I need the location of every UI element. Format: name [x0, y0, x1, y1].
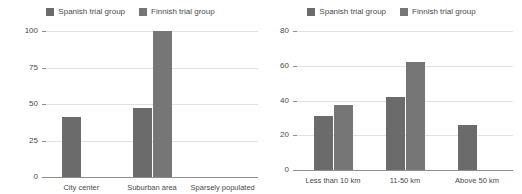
gridline [297, 31, 513, 32]
gridline [46, 31, 258, 32]
y-axis-tick [42, 68, 46, 69]
y-axis-tick [42, 104, 46, 105]
y-axis-tick [293, 101, 297, 102]
bar [133, 108, 152, 177]
bar [406, 62, 425, 170]
x-axis-tick-label: Sparsely populated [187, 183, 258, 192]
bar [334, 105, 353, 170]
x-axis-tick-label: Above 50 km [441, 176, 513, 185]
y-axis-tick [293, 66, 297, 67]
bar [62, 117, 81, 177]
y-axis-tick-label: 75 [10, 64, 38, 72]
y-axis-tick [42, 141, 46, 142]
dual-bar-chart-figure: Spanish trial groupFinnish trial group02… [0, 0, 522, 194]
plot-area: 0255075100City centerSuburban areaSparse… [0, 0, 261, 194]
chart-panel-right: Spanish trial groupFinnish trial group02… [261, 0, 522, 194]
x-axis-line [42, 177, 258, 178]
y-axis-tick [293, 135, 297, 136]
gridline [297, 66, 513, 67]
gridline [46, 104, 258, 105]
y-axis-tick-label: 60 [261, 62, 289, 70]
y-axis-tick-label: 25 [10, 137, 38, 145]
x-axis-tick-label: City center [46, 183, 117, 192]
x-axis-tick-label: Suburban area [117, 183, 188, 192]
bar [153, 31, 172, 177]
x-axis-line [293, 170, 513, 171]
y-axis-tick-label: 40 [261, 97, 289, 105]
y-axis-tick-label: 100 [10, 27, 38, 35]
y-axis-tick-label: 50 [10, 100, 38, 108]
x-axis-tick-label: 11-50 km [369, 176, 441, 185]
y-axis-tick-label: 20 [261, 131, 289, 139]
gridline [297, 101, 513, 102]
y-axis-tick-label: 80 [261, 27, 289, 35]
x-axis-tick-label: Less than 10 km [297, 176, 369, 185]
bar [314, 116, 333, 170]
y-axis-tick [42, 31, 46, 32]
chart-panel-left: Spanish trial groupFinnish trial group02… [0, 0, 261, 194]
y-axis-tick [293, 31, 297, 32]
bar [458, 125, 477, 170]
y-axis-tick-label: 0 [10, 173, 38, 181]
bar [386, 97, 405, 170]
plot-area: 020406080Less than 10 km11-50 kmAbove 50… [261, 0, 522, 194]
y-axis-tick-label: 0 [261, 166, 289, 174]
gridline [46, 68, 258, 69]
